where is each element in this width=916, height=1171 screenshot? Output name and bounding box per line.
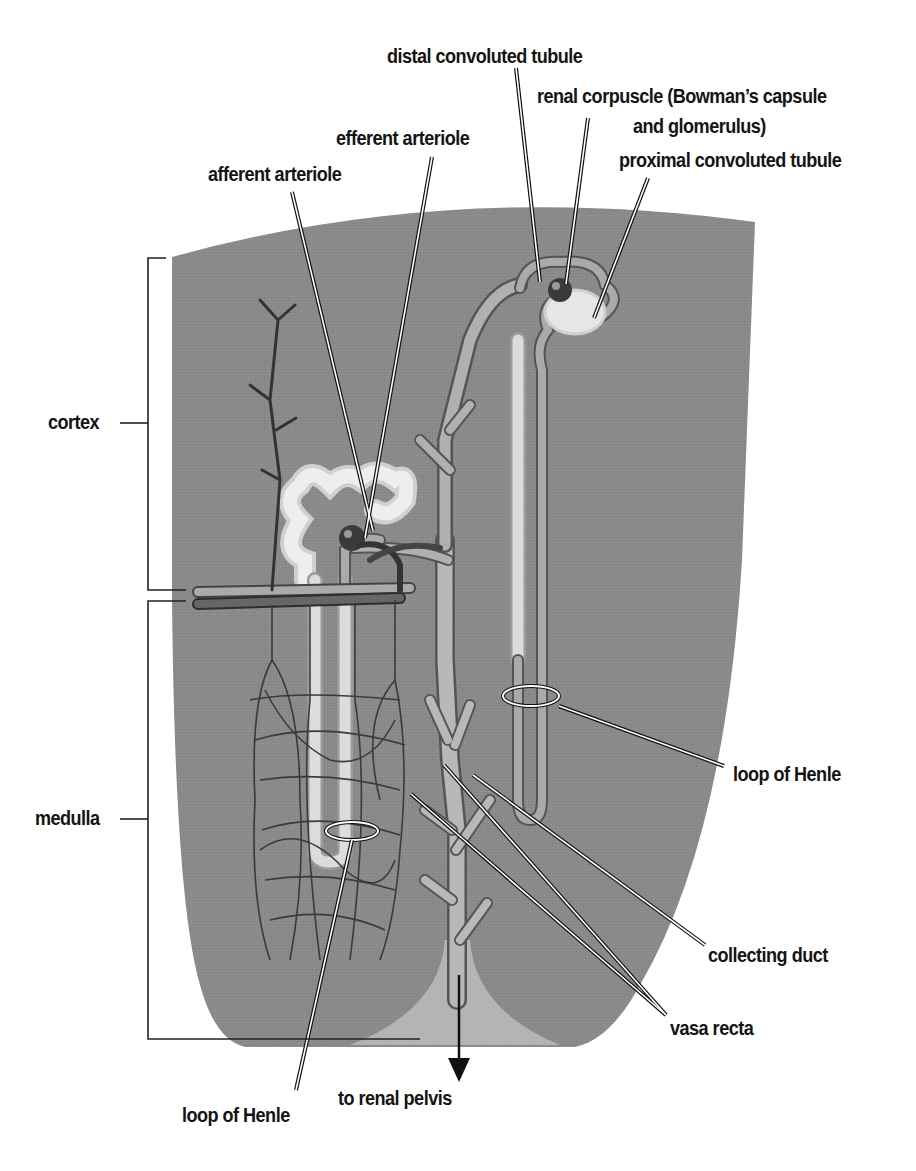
label-collecting-duct: collecting duct — [708, 943, 828, 967]
label-loop-of-henle-right: loop of Henle — [733, 762, 841, 786]
label-medulla: medulla — [35, 806, 100, 830]
label-distal-convoluted-tubule: distal convoluted tubule — [387, 44, 582, 68]
label-renal-corpuscle-line1: renal corpuscle (Bowman’s capsule — [537, 84, 826, 108]
label-cortex: cortex — [48, 410, 99, 434]
label-vasa-recta: vasa recta — [670, 1016, 753, 1040]
label-afferent-arteriole: afferent arteriole — [208, 162, 341, 186]
label-loop-of-henle-bottom: loop of Henle — [182, 1103, 290, 1127]
label-efferent-arteriole: efferent arteriole — [336, 126, 469, 150]
label-renal-corpuscle-line2: and glomerulus) — [633, 114, 766, 138]
label-to-renal-pelvis: to renal pelvis — [338, 1086, 452, 1110]
nephron-diagram — [0, 0, 916, 1171]
label-proximal-convoluted-tubule: proximal convoluted tubule — [619, 148, 841, 172]
